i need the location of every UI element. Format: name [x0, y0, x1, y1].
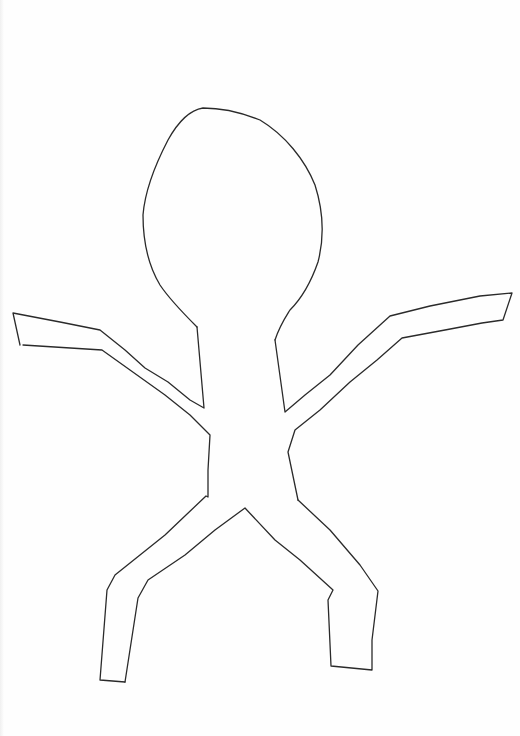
- paper-background: [0, 0, 520, 736]
- right-leg: [125, 500, 378, 682]
- right-torso-upper: [275, 293, 512, 500]
- head-outline: [143, 108, 322, 340]
- figure-sketch: [0, 0, 520, 736]
- left-torso-upper: [13, 313, 204, 408]
- left-arm-lower: [23, 345, 210, 682]
